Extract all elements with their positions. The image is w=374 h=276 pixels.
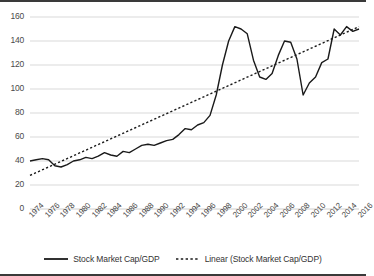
y-tick-label: 0	[2, 203, 24, 213]
legend-label: Linear (Stock Market Cap/GDP)	[205, 254, 322, 264]
series-line-linear-trend	[30, 27, 359, 176]
legend-solid-line-icon	[44, 255, 68, 263]
y-tick-label: 160	[2, 11, 24, 21]
y-tick-label: 60	[2, 131, 24, 141]
y-tick-label: 20	[2, 179, 24, 189]
series-line-stock-market-cap-gdp	[30, 27, 359, 167]
y-tick-label: 100	[2, 83, 24, 93]
chart-plot-area	[0, 2, 366, 276]
y-tick-label: 120	[2, 59, 24, 69]
y-tick-label: 140	[2, 35, 24, 45]
series-group	[30, 27, 359, 176]
chart-legend: Stock Market Cap/GDPLinear (Stock Market…	[0, 254, 366, 264]
y-tick-label: 80	[2, 107, 24, 117]
legend-dotted-line-icon	[176, 255, 200, 263]
gridlines-group	[30, 17, 359, 209]
legend-label: Stock Market Cap/GDP	[73, 254, 159, 264]
y-tick-label: 40	[2, 155, 24, 165]
legend-item[interactable]: Linear (Stock Market Cap/GDP)	[176, 254, 322, 264]
legend-item[interactable]: Stock Market Cap/GDP	[44, 254, 159, 264]
